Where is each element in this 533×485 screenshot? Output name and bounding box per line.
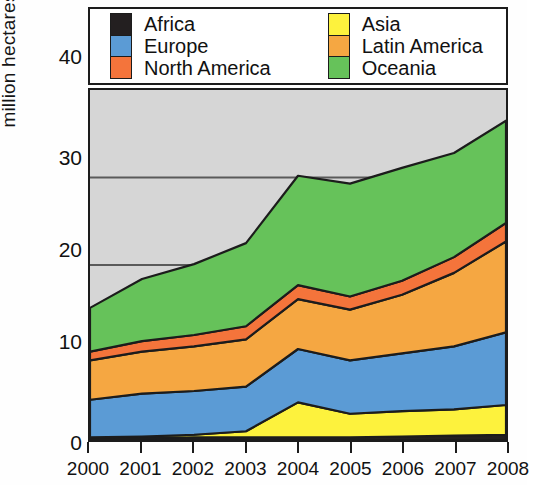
chart-legend: Africa Europe North America Asia Latin A… xyxy=(88,7,508,85)
legend-label-africa: Africa xyxy=(144,13,322,35)
y-tick-label-0: 0 xyxy=(36,432,82,453)
legend-swatch-europe xyxy=(111,36,131,58)
legend-label-europe: Europe xyxy=(144,35,322,57)
x-axis-tick-labels: 200020012002200320042005200620072008 xyxy=(60,456,530,482)
legend-swatch-north-america xyxy=(111,57,131,78)
x-tick-label-2008: 2008 xyxy=(480,456,533,482)
y-tick-label-30: 30 xyxy=(36,147,82,168)
x-tick-2004 xyxy=(297,442,299,453)
legend-swatch-africa xyxy=(111,14,131,36)
x-tick-2001 xyxy=(140,442,142,453)
x-tick-2000 xyxy=(87,442,89,453)
x-tick-2008 xyxy=(507,442,509,453)
x-tick-label-2004: 2004 xyxy=(270,456,326,482)
y-tick-label-20: 20 xyxy=(36,239,82,260)
x-tick-label-2000: 2000 xyxy=(60,456,116,482)
legend-labels-right: Asia Latin America Oceania xyxy=(362,13,506,79)
y-axis-title: million hectares xyxy=(0,0,20,160)
legend-label-north-america: North America xyxy=(144,57,322,79)
x-tick-label-2001: 2001 xyxy=(113,456,169,482)
legend-swatch-latin-america xyxy=(329,36,349,58)
x-tick-2005 xyxy=(350,442,352,453)
legend-column-left: Africa Europe North America xyxy=(90,9,322,83)
y-tick-label-10: 10 xyxy=(36,331,82,352)
legend-label-latin-america: Latin America xyxy=(362,35,506,57)
legend-label-asia: Asia xyxy=(362,13,506,35)
x-tick-label-2007: 2007 xyxy=(428,456,484,482)
x-tick-2003 xyxy=(245,442,247,453)
x-tick-2006 xyxy=(402,442,404,453)
x-tick-2007 xyxy=(455,442,457,453)
x-tick-label-2006: 2006 xyxy=(375,456,431,482)
x-tick-label-2002: 2002 xyxy=(165,456,221,482)
x-tick-label-2005: 2005 xyxy=(323,456,379,482)
legend-swatch-asia xyxy=(329,14,349,36)
legend-labels-left: Africa Europe North America xyxy=(144,13,322,79)
legend-column-right: Asia Latin America Oceania xyxy=(322,9,506,83)
stacked-area-plot xyxy=(90,90,506,440)
legend-label-oceania: Oceania xyxy=(362,57,506,79)
legend-swatch-stack-right xyxy=(328,13,350,79)
x-tick-2002 xyxy=(192,442,194,453)
legend-swatch-stack-left xyxy=(110,13,132,79)
y-axis-tick-labels: 40 30 20 10 0 xyxy=(30,0,82,485)
legend-swatch-oceania xyxy=(329,57,349,78)
x-axis-ticks xyxy=(88,442,508,453)
y-tick-label-40: 40 xyxy=(36,46,82,67)
plot-area xyxy=(88,88,508,442)
x-tick-label-2003: 2003 xyxy=(218,456,274,482)
